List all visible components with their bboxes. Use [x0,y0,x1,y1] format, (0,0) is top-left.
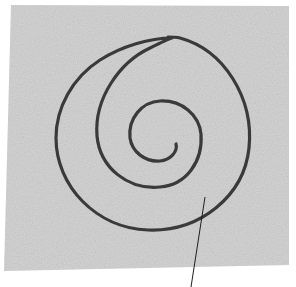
spiral-drawing-scene [0,0,296,287]
